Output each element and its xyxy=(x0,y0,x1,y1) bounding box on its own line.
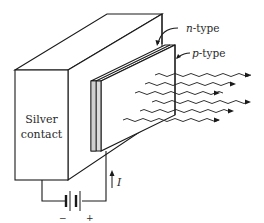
current-label: I xyxy=(116,176,122,189)
n-type-layer-front xyxy=(91,81,96,151)
battery-icon xyxy=(66,191,80,211)
current-arrow-icon xyxy=(110,170,115,188)
silver-label-line1: Silver xyxy=(25,113,58,126)
n-type-label: n-type xyxy=(186,22,219,34)
wire-left xyxy=(42,180,66,201)
silver-label-line2: contact xyxy=(21,128,63,141)
battery-plus-label: + xyxy=(86,213,94,223)
pn-junction-diagram: n-type p-type Silver contact − + I xyxy=(0,0,264,223)
battery-minus-label: − xyxy=(59,213,67,223)
p-type-label: p-type xyxy=(192,47,225,59)
